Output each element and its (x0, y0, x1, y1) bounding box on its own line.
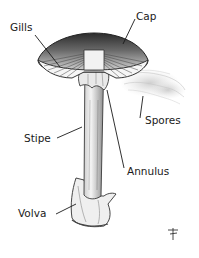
label-stipe: Stipe (24, 133, 51, 144)
annulus-leader (107, 90, 124, 168)
stipe-leader (57, 127, 82, 138)
spores-leader (140, 96, 143, 118)
cap-shape (38, 33, 148, 78)
label-spores: Spores (145, 115, 181, 126)
mushroom-illustration (0, 0, 199, 258)
mushroom-diagram: Gills Cap Spores Stipe Annulus Volva (0, 0, 199, 258)
label-gills: Gills (10, 22, 32, 33)
signature-monogram (168, 228, 178, 240)
label-annulus: Annulus (127, 166, 169, 177)
label-cap: Cap (136, 11, 156, 22)
label-volva: Volva (18, 208, 46, 219)
